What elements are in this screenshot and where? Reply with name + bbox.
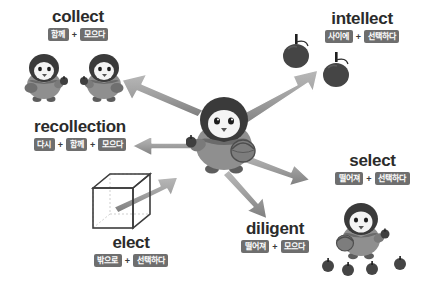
- group-recollection: recollection 다시 + 함께 + 모으다: [10, 118, 150, 151]
- tag-select-1: 떨어져: [335, 172, 363, 185]
- tag-intellect-2: 선택하다: [364, 30, 399, 43]
- group-collect: collect 함께 + 모으다: [18, 8, 138, 41]
- center-penguin-illustration: [186, 93, 262, 175]
- plus-sign: +: [58, 140, 63, 150]
- two-penguins-illustration: [15, 52, 140, 104]
- headword-recollection: recollection: [10, 118, 150, 135]
- tagrow-elect: 밖으로 + 선택하다: [76, 254, 186, 267]
- tagrow-select: 떨어져 + 선택하다: [320, 172, 425, 185]
- plus-sign: +: [366, 174, 371, 184]
- apple-lower: [323, 52, 349, 87]
- arrow-to-diligent: [223, 170, 267, 219]
- tag-diligent-1: 떨어져: [241, 240, 269, 253]
- headword-diligent: diligent: [219, 220, 331, 237]
- penguin-left: [25, 54, 69, 102]
- apple-upper: [283, 34, 309, 68]
- tag-recollection-3: 모으다: [98, 138, 126, 151]
- tag-elect-1: 밖으로: [94, 254, 122, 267]
- two-apples-illustration: [276, 32, 368, 94]
- group-elect: elect 밖으로 + 선택하다: [76, 234, 186, 267]
- tag-elect-2: 선택하다: [133, 254, 168, 267]
- penguin-right: [80, 54, 124, 102]
- wireframe-cube-illustration: [88, 166, 166, 238]
- tag-collect-1: 함께: [48, 28, 69, 41]
- tagrow-diligent: 떨어져 + 모으다: [219, 240, 331, 253]
- headword-select: select: [320, 152, 425, 169]
- plus-sign: +: [72, 30, 77, 40]
- headword-collect: collect: [18, 8, 138, 25]
- group-select: select 떨어져 + 선택하다: [320, 152, 425, 185]
- tag-recollection-2: 함께: [66, 138, 87, 151]
- penguin-with-basket: [337, 203, 390, 259]
- tag-diligent-2: 모으다: [281, 240, 309, 253]
- plus-sign: +: [90, 140, 95, 150]
- diagram-canvas: collect 함께 + 모으다: [0, 0, 427, 290]
- group-diligent: diligent 떨어져 + 모으다: [219, 220, 331, 253]
- tag-recollection-1: 다시: [34, 138, 55, 151]
- tagrow-collect: 함께 + 모으다: [18, 28, 138, 41]
- headword-intellect: intellect: [306, 10, 418, 27]
- tag-select-2: 선택하다: [375, 172, 410, 185]
- tagrow-recollection: 다시 + 함께 + 모으다: [10, 138, 150, 151]
- plus-sign: +: [125, 256, 130, 266]
- tag-collect-2: 모으다: [80, 28, 108, 41]
- plus-sign: +: [272, 242, 277, 252]
- headword-elect: elect: [76, 234, 186, 251]
- loose-apples: [322, 256, 406, 276]
